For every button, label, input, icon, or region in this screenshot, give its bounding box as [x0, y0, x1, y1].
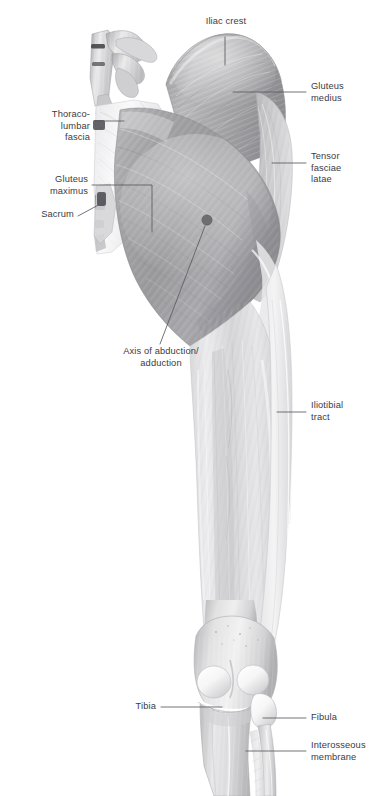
label-tibia: Tibia	[110, 701, 156, 713]
label-gluteus-medius: Gluteus medius	[311, 81, 387, 104]
axis-of-abduction-adduction-marker	[202, 215, 212, 225]
label-interosseous-membrane: Interosseous membrane	[311, 740, 389, 763]
label-thoracolumbar-fascia: Thoraco- lumbar fascia	[16, 109, 90, 144]
label-fibula: Fibula	[311, 712, 387, 724]
label-iliotibial-tract: Iliotibial tract	[311, 400, 387, 423]
label-iliac-crest: Iliac crest	[181, 16, 271, 28]
label-tensor-fasciae-latae: Tensor fasciae latae	[311, 151, 387, 186]
label-gluteus-maximus: Gluteus maximus	[8, 174, 88, 197]
tibia-structure	[200, 704, 252, 796]
label-sacrum: Sacrum	[8, 209, 74, 221]
label-axis-of-abduction-adduction: Axis of abduction/ adduction	[99, 346, 223, 369]
